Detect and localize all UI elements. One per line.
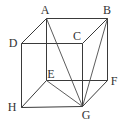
edge-he — [22, 81, 47, 108]
vertex-label-f: F — [111, 74, 118, 88]
edge-da — [22, 19, 47, 44]
vertex-label-a: A — [41, 3, 50, 17]
vertex-label-d: D — [9, 36, 18, 50]
edge-gh — [22, 107, 83, 108]
vertex-label-h: H — [8, 100, 17, 114]
vertex-label-b: B — [103, 3, 111, 17]
vertex-label-g: G — [82, 108, 91, 122]
cube-diagram: A B C D E F G H — [0, 0, 124, 122]
vertex-label-c: C — [73, 29, 81, 43]
vertex-label-e: E — [47, 67, 54, 81]
